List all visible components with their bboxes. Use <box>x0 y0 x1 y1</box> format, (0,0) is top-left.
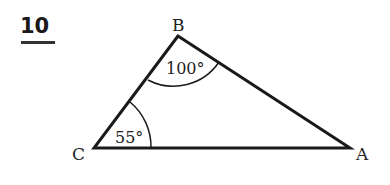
angle-label-b: 100° <box>166 59 205 78</box>
vertex-label-a: A <box>355 144 369 164</box>
vertex-label-b: B <box>172 15 185 35</box>
vertex-label-c: C <box>72 144 85 164</box>
triangle-diagram: B C A 100° 55° <box>0 0 390 185</box>
angle-label-c: 55° <box>115 128 143 147</box>
